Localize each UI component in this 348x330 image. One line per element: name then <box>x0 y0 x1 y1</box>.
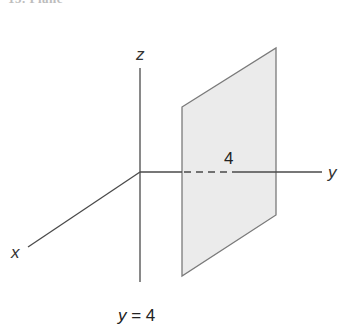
caption-variable: y <box>118 306 127 325</box>
z-axis-label: z <box>135 45 145 64</box>
x-axis-label: x <box>10 243 20 262</box>
equation-caption: y = 4 <box>118 306 155 326</box>
x-axis <box>28 172 140 247</box>
y-axis-label: y <box>327 163 338 182</box>
plane-intercept-label: 4 <box>224 149 233 168</box>
3d-coordinate-diagram: z y x 4 <box>0 0 348 330</box>
caption-equals: = 4 <box>127 306 156 325</box>
